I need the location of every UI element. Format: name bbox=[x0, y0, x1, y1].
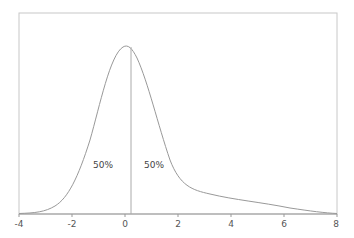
tick-label: 8 bbox=[333, 219, 339, 229]
density-curve bbox=[19, 46, 337, 213]
tick-label: 6 bbox=[281, 219, 287, 229]
x-tick-labels: -4 -2 0 2 4 6 8 bbox=[15, 219, 340, 229]
density-chart: -4 -2 0 2 4 6 8 50% 50% bbox=[0, 0, 354, 238]
right-area-label: 50% bbox=[144, 160, 164, 170]
tick-label: 2 bbox=[175, 219, 181, 229]
plot-frame bbox=[19, 13, 337, 214]
tick-label: 4 bbox=[228, 219, 234, 229]
left-area-label: 50% bbox=[93, 160, 113, 170]
tick-label: 0 bbox=[122, 219, 128, 229]
tick-label: -4 bbox=[15, 219, 24, 229]
tick-label: -2 bbox=[68, 219, 77, 229]
